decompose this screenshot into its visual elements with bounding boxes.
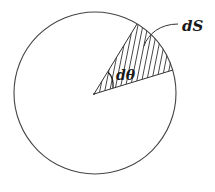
center-point [93, 93, 95, 95]
dtheta-label: dθ [116, 67, 136, 83]
ds-label: dS [182, 17, 203, 35]
sector-radius-upper [94, 24, 137, 94]
sector-hatching [96, 10, 186, 110]
circle-sector-diagram: dS dθ [0, 0, 215, 192]
